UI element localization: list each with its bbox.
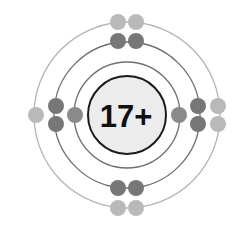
nucleus-charge-label: 17+ — [100, 99, 153, 134]
electron-shell-1 — [171, 107, 187, 123]
electron-shell-3 — [128, 14, 144, 30]
electron-shell-2 — [110, 180, 126, 196]
electron-shell-2 — [48, 116, 64, 132]
electron-shell-3 — [210, 116, 226, 132]
electron-shell-2 — [190, 98, 206, 114]
electron-shell-3 — [128, 200, 144, 216]
electron-shell-2 — [48, 98, 64, 114]
electron-shell-3 — [110, 14, 126, 30]
electron-shell-1 — [67, 107, 83, 123]
electron-shell-3 — [110, 200, 126, 216]
electron-shell-3 — [210, 98, 226, 114]
electron-shell-2 — [128, 180, 144, 196]
electron-shell-2 — [128, 33, 144, 49]
electron-shell-3 — [28, 107, 44, 123]
electron-shell-2 — [190, 116, 206, 132]
nucleus: 17+ — [88, 76, 166, 154]
electron-shell-2 — [110, 33, 126, 49]
atom-diagram: 17+ — [0, 0, 235, 227]
